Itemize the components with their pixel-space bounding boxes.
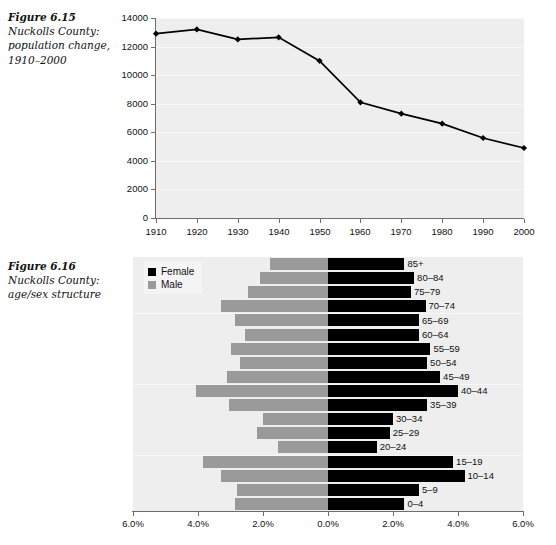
pyramid-male-bar (227, 371, 328, 383)
pyramid-x-tick-label: 2.0% (373, 518, 413, 529)
pyramid-male-bar (221, 470, 328, 482)
pyramid-male-bar (240, 357, 328, 369)
population-x-tick (197, 219, 198, 223)
population-y-tick (151, 104, 155, 105)
population-x-axis (155, 218, 524, 219)
pyramid-age-group-label: 20–24 (380, 441, 406, 452)
population-x-tick (483, 219, 484, 223)
population-x-tick-label: 2000 (504, 226, 544, 237)
pyramid-male-bar (270, 258, 329, 270)
population-y-tick (151, 18, 155, 19)
legend-label-male: Male (161, 279, 183, 290)
pyramid-x-tick-label: 0.0% (308, 518, 348, 529)
pyramid-x-tick (198, 512, 199, 516)
population-x-tick-label: 1920 (177, 226, 217, 237)
pyramid-x-tick-label: 6.0% (113, 518, 153, 529)
population-y-tick-label: 10000 (104, 69, 148, 80)
population-change-line-chart: 0200040006000800010000120001400019101920… (0, 0, 556, 248)
population-x-tick-label: 1960 (340, 226, 380, 237)
pyramid-age-group-label: 45–49 (443, 371, 469, 382)
pyramid-age-group-label: 35–39 (430, 399, 456, 410)
female-swatch-icon (148, 268, 156, 276)
population-data-point (480, 135, 486, 141)
male-swatch-icon (148, 281, 156, 289)
pyramid-age-row (0, 272, 556, 284)
population-data-point (521, 145, 527, 151)
pyramid-age-row (0, 399, 556, 411)
pyramid-x-tick-label: 2.0% (243, 518, 283, 529)
population-data-point (398, 111, 404, 117)
pyramid-female-bar (328, 441, 377, 453)
pyramid-age-group-label: 0–4 (407, 498, 423, 509)
pyramid-x-tick (393, 512, 394, 516)
population-line-series (156, 18, 524, 218)
pyramid-x-tick-label: 6.0% (503, 518, 543, 529)
population-x-tick (401, 219, 402, 223)
pyramid-age-group-label: 55–59 (433, 343, 459, 354)
pyramid-age-row (0, 343, 556, 355)
population-y-tick-label: 2000 (104, 183, 148, 194)
population-data-point (439, 121, 445, 127)
pyramid-male-bar (231, 343, 329, 355)
pyramid-male-bar (203, 456, 328, 468)
pyramid-female-bar (328, 300, 426, 312)
population-y-tick (151, 75, 155, 76)
pyramid-age-row (0, 498, 556, 510)
pyramid-age-group-label: 65–69 (422, 315, 448, 326)
pyramid-age-group-label: 70–74 (429, 300, 455, 311)
pyramid-female-bar (328, 314, 419, 326)
population-x-tick-label: 1970 (381, 226, 421, 237)
population-y-tick-label: 12000 (104, 41, 148, 52)
population-y-tick (151, 132, 155, 133)
population-x-tick-label: 1940 (259, 226, 299, 237)
pyramid-age-row (0, 441, 556, 453)
pyramid-age-row (0, 357, 556, 369)
population-trend-line (156, 29, 524, 148)
pyramid-gridline (133, 313, 523, 314)
pyramid-male-bar (263, 413, 328, 425)
legend-row-male: Male (148, 278, 194, 291)
pyramid-male-bar (260, 272, 328, 284)
pyramid-female-bar (328, 498, 404, 510)
population-y-tick-label: 4000 (104, 155, 148, 166)
pyramid-female-bar (328, 399, 427, 411)
pyramid-male-bar (229, 399, 328, 411)
pyramid-x-tick-label: 4.0% (438, 518, 478, 529)
pyramid-female-bar (328, 286, 411, 298)
population-x-tick-label: 1950 (300, 226, 340, 237)
population-x-tick (320, 219, 321, 223)
population-data-point (153, 31, 159, 37)
pyramid-female-bar (328, 413, 393, 425)
population-x-tick-label: 1910 (136, 226, 176, 237)
pyramid-age-group-label: 30–34 (396, 413, 422, 424)
pyramid-female-bar (328, 272, 414, 284)
population-x-tick (442, 219, 443, 223)
pyramid-age-group-label: 85+ (407, 258, 423, 269)
pyramid-age-group-label: 25–29 (393, 427, 419, 438)
pyramid-female-bar (328, 343, 430, 355)
population-x-tick-label: 1990 (463, 226, 503, 237)
pyramid-age-row (0, 413, 556, 425)
population-y-tick-label: 0 (104, 212, 148, 223)
pyramid-age-group-label: 60–64 (422, 329, 448, 340)
pyramid-male-bar (248, 286, 328, 298)
pyramid-female-bar (328, 371, 440, 383)
pyramid-age-group-label: 15–19 (456, 456, 482, 467)
pyramid-gridline (133, 455, 523, 456)
population-x-tick (360, 219, 361, 223)
pyramid-male-bar (278, 441, 328, 453)
pyramid-male-bar (245, 329, 328, 341)
pyramid-age-group-label: 10–14 (468, 470, 494, 481)
pyramid-age-row (0, 371, 556, 383)
pyramid-age-row (0, 258, 556, 270)
legend-row-female: Female (148, 265, 194, 278)
pyramid-x-tick (263, 512, 264, 516)
pyramid-x-tick (133, 512, 134, 516)
pyramid-age-group-label: 5–9 (422, 484, 438, 495)
population-y-tick-label: 14000 (104, 12, 148, 23)
population-data-point (194, 26, 200, 32)
pyramid-age-row (0, 427, 556, 439)
pyramid-female-bar (328, 470, 465, 482)
pyramid-male-bar (196, 385, 328, 397)
pyramid-age-group-label: 40–44 (461, 385, 487, 396)
